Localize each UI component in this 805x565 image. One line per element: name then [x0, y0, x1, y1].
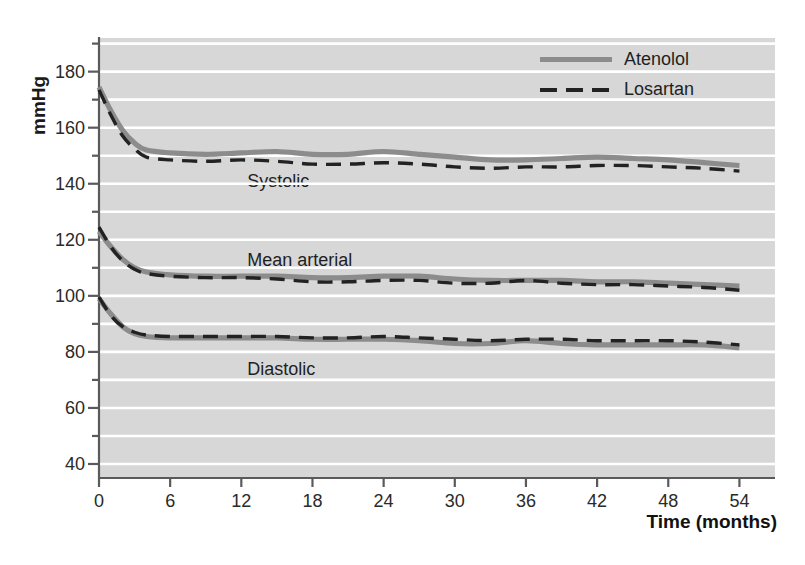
legend-label-atenolol: Atenolol — [624, 49, 689, 70]
legend-item-atenolol: Atenolol — [540, 44, 694, 74]
chart-legend: Atenolol Losartan — [540, 44, 694, 104]
legend-dashed-line-icon — [540, 80, 612, 98]
chart-figure: mmHg 406080100120140160180 0612182430364… — [0, 0, 805, 565]
legend-label-losartan: Losartan — [624, 79, 694, 100]
legend-item-losartan: Losartan — [540, 74, 694, 104]
legend-solid-line-icon — [540, 50, 612, 68]
x-axis-title: Time (months) — [646, 511, 777, 533]
